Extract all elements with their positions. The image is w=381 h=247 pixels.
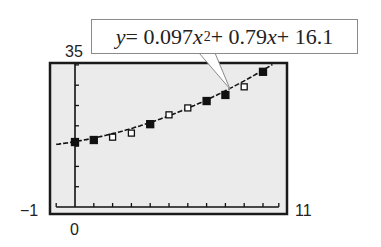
filled-square-marker bbox=[260, 68, 267, 75]
equation-exponent: 2 bbox=[204, 29, 211, 45]
ymin-label: 0 bbox=[70, 222, 79, 238]
filled-square-marker bbox=[72, 139, 79, 146]
equation-y-var: y bbox=[116, 24, 126, 50]
equation-part-1: = 0.097 bbox=[125, 24, 192, 50]
filled-square-marker bbox=[147, 121, 154, 128]
hollow-square-marker bbox=[128, 130, 134, 136]
hollow-square-marker bbox=[185, 105, 191, 111]
xmax-label: 11 bbox=[295, 203, 312, 219]
xmin-label: −1 bbox=[20, 203, 38, 219]
filled-square-marker bbox=[222, 91, 229, 98]
hollow-square-marker bbox=[110, 134, 116, 140]
regression-equation-callout: y = 0.097x2 + 0.79x + 16.1 bbox=[91, 19, 358, 54]
equation-x-var: x bbox=[193, 24, 203, 50]
screen-frame bbox=[50, 63, 287, 214]
equation-part-3: + 16.1 bbox=[277, 24, 333, 50]
equation-part-2: + 0.79 bbox=[211, 24, 267, 50]
equation-x-var-2: x bbox=[267, 24, 277, 50]
ymax-label: 35 bbox=[65, 44, 83, 60]
filled-square-marker bbox=[203, 98, 210, 105]
filled-square-marker bbox=[90, 137, 97, 144]
graphing-calculator-figure: y = 0.097x2 + 0.79x + 16.1 35 −1 11 0 bbox=[0, 0, 381, 247]
hollow-square-marker bbox=[166, 112, 172, 118]
hollow-square-marker bbox=[241, 84, 247, 90]
